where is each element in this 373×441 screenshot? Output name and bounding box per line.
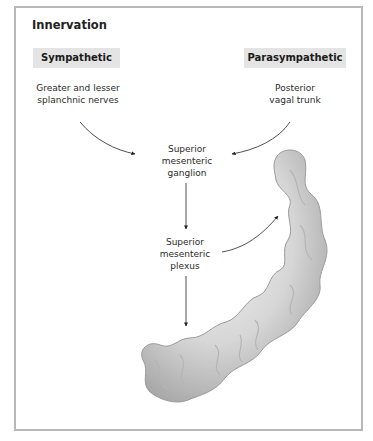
plexus-to-upper-intestine-arrow [222, 216, 278, 252]
sympathetic-arrow [80, 122, 135, 154]
small-intestine-illustration [142, 150, 327, 402]
diagram-graphics [0, 0, 373, 441]
parasympathetic-arrow [232, 122, 290, 154]
